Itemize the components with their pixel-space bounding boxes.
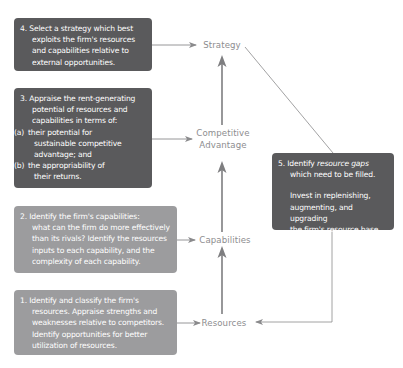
node-competitive-advantage: Competitive Advantage: [190, 127, 256, 151]
step-1-number: 1.: [20, 296, 27, 305]
arrow-step5-to-resources: [256, 230, 332, 322]
node-resources: Resources: [199, 317, 249, 329]
node-strategy: Strategy: [196, 39, 248, 51]
step-3-item-a: (a) their potential for sustainable comp…: [14, 127, 146, 161]
step-5-box: 5. Identify resource gaps which need to …: [272, 153, 394, 230]
step-4-number: 4.: [20, 24, 27, 33]
step-5-number: 5.: [278, 159, 285, 168]
line-strategy-to-step5: [245, 47, 333, 153]
step-1-box: 1. Identify and classify the firm's reso…: [14, 290, 177, 355]
resource-gaps-emphasis: resource gaps: [317, 159, 369, 168]
step-4-box: 4. Select a strategy which best exploits…: [14, 18, 152, 71]
step-3-item-b: (b) the appropriability of their returns…: [14, 160, 146, 182]
step-3-box: 3. Appraise the rent-generating potentia…: [14, 88, 152, 188]
step-3-number: 3.: [20, 94, 27, 103]
step-2-number: 2.: [20, 212, 27, 221]
node-capabilities: Capabilities: [194, 234, 256, 246]
step-2-box: 2. Identify the firm's capabilities: wha…: [14, 206, 177, 273]
